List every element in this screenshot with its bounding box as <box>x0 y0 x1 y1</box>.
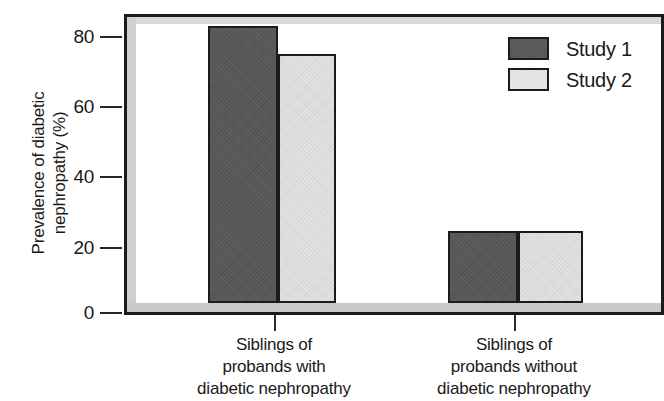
y-tick-label-0: 0 <box>48 303 94 322</box>
y-axis-title-line-1: Prevalence of diabetic <box>28 28 49 318</box>
plot-area: Study 1 Study 2 <box>124 14 664 315</box>
legend-label-study2: Study 2 <box>566 70 632 90</box>
x-category-label-group2: Siblings of probands without diabetic ne… <box>399 334 629 400</box>
bar-group1-study2[interactable] <box>278 54 336 303</box>
bar-group1-study1[interactable] <box>208 26 278 303</box>
legend-swatch-study1-icon <box>508 37 549 60</box>
y-tick-mark-40 <box>100 176 122 178</box>
y-tick-mark-80 <box>100 36 122 38</box>
y-tick-label-20: 20 <box>48 238 94 257</box>
x-category-label-group1: Siblings of probands with diabetic nephr… <box>159 334 389 400</box>
bar-group2-study1[interactable] <box>448 231 518 303</box>
legend: Study 1 Study 2 <box>508 33 632 95</box>
legend-label-study1: Study 1 <box>566 39 632 59</box>
y-tick-label-80: 80 <box>48 27 94 46</box>
x-category-label-group2-line-3: diabetic nephropathy <box>399 378 629 400</box>
y-axis-ticks: 80 60 40 20 0 <box>48 0 94 401</box>
y-tick-mark-60 <box>100 106 122 108</box>
y-tick-mark-0 <box>100 312 122 314</box>
x-category-label-group1-line-2: probands with <box>159 356 389 378</box>
x-category-label-group1-line-3: diabetic nephropathy <box>159 378 389 400</box>
y-tick-mark-20 <box>100 247 122 249</box>
x-category-label-group1-line-1: Siblings of <box>159 334 389 356</box>
legend-item-study1[interactable]: Study 1 <box>508 33 632 64</box>
x-category-label-group2-line-2: probands without <box>399 356 629 378</box>
y-tick-label-60: 60 <box>48 97 94 116</box>
legend-item-study2[interactable]: Study 2 <box>508 64 632 95</box>
legend-swatch-study2-icon <box>508 68 549 91</box>
y-tick-label-40: 40 <box>48 167 94 186</box>
x-category-label-group2-line-1: Siblings of <box>399 334 629 356</box>
bar-group2-study2[interactable] <box>518 231 583 303</box>
x-tick-mark-group1 <box>274 315 276 331</box>
x-tick-mark-group2 <box>514 315 516 331</box>
